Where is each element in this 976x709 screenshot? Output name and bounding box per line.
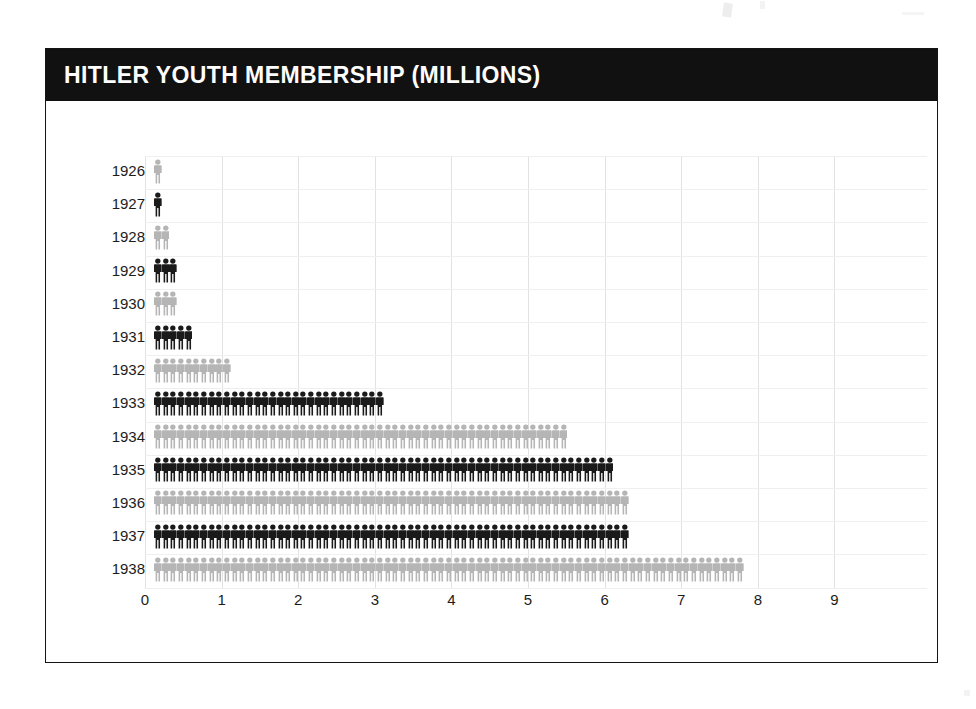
person-pictogram-icon xyxy=(345,424,353,449)
x-axis-tick-6: 6 xyxy=(600,591,608,608)
bar-track xyxy=(154,420,927,453)
chart-row: 1931 xyxy=(99,320,927,353)
person-pictogram-icon xyxy=(169,524,177,549)
person-pictogram-icon xyxy=(162,457,170,482)
person-pictogram-icon xyxy=(192,424,200,449)
person-pictogram-icon xyxy=(621,557,629,582)
person-pictogram-icon xyxy=(399,457,407,482)
person-pictogram-icon xyxy=(345,524,353,549)
person-pictogram-icon xyxy=(583,524,591,549)
person-pictogram-icon xyxy=(177,424,185,449)
person-pictogram-icon xyxy=(590,524,598,549)
person-pictogram-icon xyxy=(292,490,300,515)
person-pictogram-icon xyxy=(322,490,330,515)
person-pictogram-icon xyxy=(246,490,254,515)
chart-row: 1926 xyxy=(99,154,927,187)
y-axis-label-1927: 1927 xyxy=(99,196,154,211)
person-pictogram-icon xyxy=(315,557,323,582)
person-pictogram-icon xyxy=(407,524,415,549)
person-pictogram-icon xyxy=(713,557,721,582)
y-axis-label-1937: 1937 xyxy=(99,528,154,543)
person-pictogram-icon xyxy=(169,391,177,416)
person-pictogram-icon xyxy=(391,424,399,449)
person-pictogram-icon xyxy=(391,524,399,549)
person-pictogram-icon xyxy=(162,490,170,515)
bar-track xyxy=(154,353,927,386)
pictogram-bar-1929 xyxy=(154,257,177,283)
person-pictogram-icon xyxy=(483,490,491,515)
person-pictogram-icon xyxy=(200,358,208,383)
person-pictogram-icon xyxy=(192,490,200,515)
person-pictogram-icon xyxy=(284,490,292,515)
person-pictogram-icon xyxy=(361,557,369,582)
person-pictogram-icon xyxy=(384,424,392,449)
person-pictogram-icon xyxy=(560,457,568,482)
person-pictogram-icon xyxy=(476,557,484,582)
person-pictogram-icon xyxy=(698,557,706,582)
person-pictogram-icon xyxy=(384,490,392,515)
bar-track xyxy=(154,254,927,287)
person-pictogram-icon xyxy=(644,557,652,582)
x-axis-tick-2: 2 xyxy=(294,591,302,608)
person-pictogram-icon xyxy=(544,490,552,515)
chart-row: 1938 xyxy=(99,552,927,585)
person-pictogram-icon xyxy=(200,424,208,449)
person-pictogram-icon xyxy=(361,490,369,515)
person-pictogram-icon xyxy=(269,424,277,449)
person-pictogram-icon xyxy=(544,424,552,449)
person-pictogram-icon xyxy=(598,557,606,582)
person-pictogram-icon xyxy=(353,424,361,449)
person-pictogram-icon xyxy=(162,424,170,449)
person-pictogram-icon xyxy=(231,524,239,549)
person-pictogram-icon xyxy=(499,524,507,549)
person-pictogram-icon xyxy=(154,159,162,184)
person-pictogram-icon xyxy=(552,557,560,582)
person-pictogram-icon xyxy=(284,557,292,582)
person-pictogram-icon xyxy=(445,424,453,449)
scan-artifact xyxy=(964,690,970,696)
person-pictogram-icon xyxy=(231,457,239,482)
person-pictogram-icon xyxy=(437,557,445,582)
person-pictogram-icon xyxy=(238,490,246,515)
bar-track xyxy=(154,320,927,353)
gridline-horizontal xyxy=(145,588,927,589)
pictogram-bar-1935 xyxy=(154,456,614,482)
bar-track xyxy=(154,486,927,519)
person-pictogram-icon xyxy=(552,490,560,515)
person-pictogram-icon xyxy=(537,457,545,482)
chart-row: 1937 xyxy=(99,519,927,552)
person-pictogram-icon xyxy=(368,424,376,449)
person-pictogram-icon xyxy=(353,457,361,482)
person-pictogram-icon xyxy=(154,524,162,549)
person-pictogram-icon xyxy=(177,457,185,482)
person-pictogram-icon xyxy=(177,490,185,515)
person-pictogram-icon xyxy=(453,490,461,515)
pictogram-chart: 1926192719281929193019311932193319341935… xyxy=(99,154,927,650)
person-pictogram-icon xyxy=(583,490,591,515)
person-pictogram-icon xyxy=(514,524,522,549)
person-pictogram-icon xyxy=(422,557,430,582)
person-pictogram-icon xyxy=(399,424,407,449)
y-axis-label-1932: 1932 xyxy=(99,362,154,377)
x-axis-tick-1: 1 xyxy=(217,591,225,608)
person-pictogram-icon xyxy=(284,424,292,449)
person-pictogram-icon xyxy=(361,391,369,416)
person-pictogram-icon xyxy=(368,457,376,482)
person-pictogram-icon xyxy=(529,457,537,482)
person-pictogram-icon xyxy=(215,557,223,582)
person-pictogram-icon xyxy=(292,391,300,416)
person-pictogram-icon xyxy=(522,457,530,482)
person-pictogram-icon xyxy=(292,457,300,482)
person-pictogram-icon xyxy=(514,490,522,515)
person-pictogram-icon xyxy=(544,557,552,582)
person-pictogram-icon xyxy=(522,557,530,582)
person-pictogram-icon xyxy=(667,557,675,582)
person-pictogram-icon xyxy=(552,424,560,449)
person-pictogram-icon xyxy=(376,490,384,515)
person-pictogram-icon xyxy=(261,391,269,416)
bar-track xyxy=(154,519,927,552)
person-pictogram-icon xyxy=(192,358,200,383)
person-pictogram-icon xyxy=(613,490,621,515)
person-pictogram-icon xyxy=(238,457,246,482)
person-pictogram-icon xyxy=(208,457,216,482)
